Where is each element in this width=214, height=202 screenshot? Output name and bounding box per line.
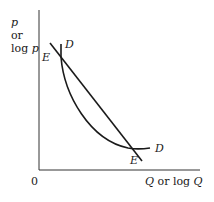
y-axis-label: p or log p xyxy=(11,16,39,55)
origin-label: 0 xyxy=(31,176,38,187)
x-axis-label-middle: or log xyxy=(154,175,194,188)
y-axis-label-line1: p xyxy=(11,16,39,29)
y-axis-label-line3-prefix: log xyxy=(11,42,32,55)
label-d-bottom: D xyxy=(155,143,164,154)
y-axis-label-line3-var: p xyxy=(32,42,39,55)
y-axis-label-line2: or xyxy=(11,29,39,42)
x-axis-label-var2: Q xyxy=(194,175,203,188)
curve-d xyxy=(61,44,150,149)
label-e-top: E xyxy=(42,52,50,63)
x-axis-label-var1: Q xyxy=(145,175,154,188)
x-axis-label: Q or log Q xyxy=(145,176,203,187)
line-e xyxy=(50,43,142,161)
label-e-bottom: E xyxy=(130,155,138,166)
label-d-top: D xyxy=(65,39,74,50)
